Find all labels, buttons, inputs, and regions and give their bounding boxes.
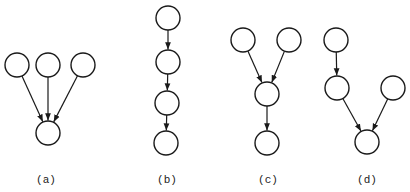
edge-arrow (372, 99, 387, 131)
graph-node (5, 53, 29, 77)
graph-node (255, 82, 279, 106)
graph-node (156, 50, 180, 74)
graph-diagram: (a)(b)(c)(d) (0, 0, 410, 192)
edge-arrow (248, 51, 262, 83)
graph-node (325, 76, 349, 100)
graph-node (324, 28, 348, 52)
nodes-layer (5, 6, 405, 155)
subfigure-label: (c) (258, 174, 278, 186)
edge-arrow (343, 98, 361, 131)
subfigure-label: (b) (157, 174, 177, 186)
graph-node (36, 53, 60, 77)
graph-node (255, 131, 279, 155)
graph-node (355, 130, 379, 154)
graph-node (156, 6, 180, 30)
edge-arrow (22, 76, 43, 122)
graph-node (154, 131, 178, 155)
labels-layer: (a)(b)(c)(d) (36, 174, 377, 186)
graph-node (155, 91, 179, 115)
graph-node (381, 76, 405, 100)
graph-node (231, 28, 255, 52)
graph-node (71, 53, 95, 77)
graph-node (36, 121, 60, 145)
subfigure-label: (a) (36, 174, 56, 186)
subfigure-label: (d) (357, 174, 377, 186)
graph-node (277, 28, 301, 52)
edge-arrow (54, 76, 78, 122)
edge-arrow (272, 51, 285, 82)
